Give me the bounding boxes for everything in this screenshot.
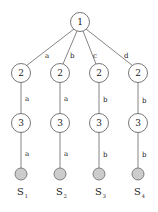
edge-label-3-leaf-4: b: [142, 151, 147, 159]
edge-label-2-3-4: b: [142, 97, 147, 105]
level3-nodes: 3 3 3 3: [12, 114, 148, 133]
node-3-4-label: 3: [135, 118, 141, 128]
node-2-1-label: 2: [18, 68, 24, 78]
edges-level1: [26, 29, 133, 66]
edge-label-a: a: [45, 52, 49, 60]
node-3-3-label: 3: [96, 118, 102, 128]
edges-level3: [21, 132, 138, 168]
node-2-4-label: 2: [135, 68, 141, 78]
edge-label-3-leaf-3: b: [103, 151, 108, 159]
leaf-label-s1: S1: [17, 186, 28, 199]
node-3-2-label: 3: [57, 118, 63, 128]
leaf-label-s2: S2: [56, 186, 67, 199]
tree-svg: a b c d a a b b a a b b 1 2 2: [0, 0, 158, 212]
node-3-1-label: 3: [18, 118, 24, 128]
edge-labels-level3: a a b b: [25, 150, 147, 159]
edge-label-3-leaf-2: a: [64, 150, 68, 158]
node-2-3-label: 2: [96, 68, 102, 78]
leaf-node-3: [93, 168, 105, 180]
leaf-node-2: [54, 168, 66, 180]
node-2-2-label: 2: [57, 68, 63, 78]
edge-label-2-3-1: a: [25, 95, 29, 103]
edge-label-3-leaf-1: a: [25, 150, 29, 158]
edge-label-2-3-2: a: [64, 95, 68, 103]
edge-labels-level2: a a b b: [25, 95, 147, 105]
leaf-nodes: [15, 168, 144, 180]
edge-root-to-2d: [86, 29, 133, 66]
leaf-node-4: [132, 168, 144, 180]
edge-label-d: d: [124, 52, 129, 60]
edge-root-to-2a: [26, 29, 74, 66]
leaf-node-1: [15, 168, 27, 180]
root-node: 1: [71, 13, 90, 32]
level2-nodes: 2 2 2 2: [12, 64, 148, 83]
edges-level2: [21, 82, 138, 114]
edge-label-b: b: [70, 52, 75, 60]
tree-diagram: a b c d a a b b a a b b 1 2 2: [0, 0, 158, 212]
edge-label-2-3-3: b: [103, 96, 108, 104]
edge-label-c: c: [93, 52, 97, 60]
root-node-label: 1: [77, 17, 83, 27]
leaf-labels: S1 S2 S3 S4: [17, 186, 145, 199]
leaf-label-s4: S4: [134, 186, 145, 199]
leaf-label-s3: S3: [95, 186, 106, 199]
